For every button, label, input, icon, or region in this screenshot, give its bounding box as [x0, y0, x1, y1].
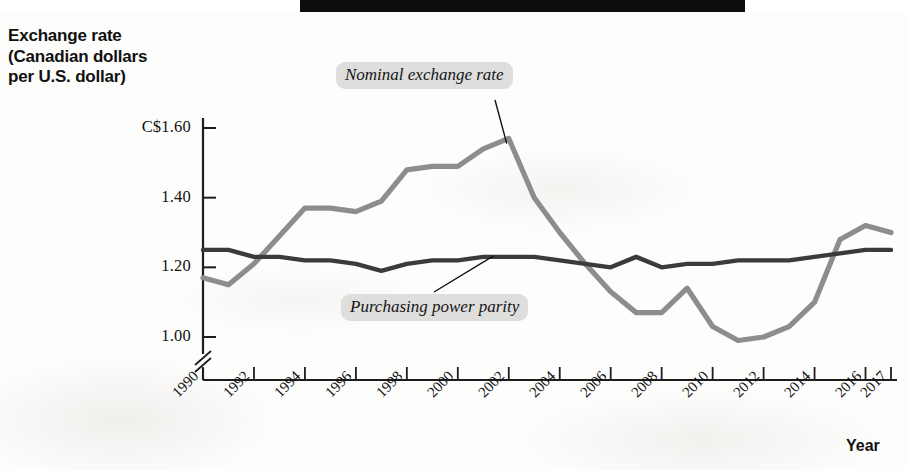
y-axis-tick-label: C$1.60 [99, 117, 191, 137]
series-line-nominal-exchange-rate [203, 138, 891, 340]
annotation-purchasing-power-parity: Purchasing power parity [341, 294, 528, 321]
leader-line-nominal [495, 100, 507, 144]
y-axis-tick-label: 1.20 [99, 256, 191, 276]
y-axis-tick-label: 1.00 [99, 326, 191, 346]
y-axis-tick-label: 1.40 [99, 187, 191, 207]
x-axis-title: Year [846, 437, 880, 455]
chart-page: Exchange rate (Canadian dollars per U.S.… [0, 0, 907, 470]
series-line-purchasing-power-parity [203, 250, 891, 271]
annotation-nominal-exchange-rate: Nominal exchange rate [336, 62, 513, 89]
